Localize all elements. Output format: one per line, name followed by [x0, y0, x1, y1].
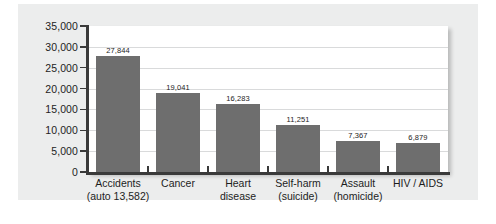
bar[interactable] — [156, 93, 200, 172]
category-label-line-1: Heart — [225, 177, 251, 189]
category-label-line-1: Assault — [341, 177, 375, 189]
bar[interactable] — [396, 143, 440, 172]
category-label-line-1: Accidents — [95, 177, 141, 189]
bar-value-label: 19,041 — [146, 83, 210, 92]
category-label-line-1: HIV / AIDS — [393, 177, 443, 189]
bar-value-label: 6,879 — [386, 133, 450, 142]
bar-value-label: 27,844 — [86, 46, 150, 55]
x-axis-category-label: HIV / AIDS — [382, 177, 454, 190]
bar-series: 27,84419,04116,28311,2517,3676,879 — [0, 0, 496, 172]
bar-value-label: 11,251 — [266, 115, 330, 124]
category-label-line-2: (homicide) — [322, 190, 394, 203]
category-label-line-2: (auto 13,582) — [82, 190, 154, 203]
bar-value-label: 16,283 — [206, 94, 270, 103]
category-label-line-1: Self-harm — [275, 177, 321, 189]
bar-value-label: 7,367 — [326, 131, 390, 140]
bar[interactable] — [96, 56, 140, 172]
bar[interactable] — [336, 141, 380, 172]
bar[interactable] — [276, 125, 320, 172]
bar[interactable] — [216, 104, 260, 172]
category-label-line-1: Cancer — [161, 177, 195, 189]
